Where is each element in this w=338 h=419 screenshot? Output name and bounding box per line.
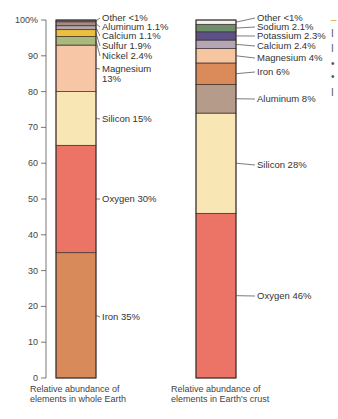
segment-label-oxygen: Oxygen 30%	[102, 193, 157, 204]
bar-segment-iron	[196, 63, 236, 84]
y-tick-label: 50	[28, 194, 38, 204]
crust-labels: Oxygen 46%Silicon 28%Aluminum 8%Iron 6%M…	[236, 12, 326, 301]
leader-line	[236, 56, 255, 58]
bar-segment-silicon	[196, 113, 236, 213]
cutoff-glyph: I	[331, 43, 334, 54]
segment-label-nickel: Nickel 2.4%	[102, 50, 153, 61]
segment-label-sulfur: Sulfur 1.9%	[102, 40, 152, 51]
cutoff-glyph: •	[331, 58, 335, 69]
segment-label-oxygen: Oxygen 46%	[257, 290, 312, 301]
leader-line	[96, 315, 100, 317]
segment-label-other: Other <1%	[102, 12, 148, 23]
segment-label-aluminum: Aluminum 8%	[257, 93, 316, 104]
segment-label-magnesium: 13%	[102, 73, 122, 84]
whole-earth-caption-line2: elements in whole Earth	[30, 394, 126, 404]
y-tick-label: 0	[33, 373, 38, 383]
leader-line	[236, 163, 255, 165]
leader-line	[96, 118, 100, 119]
y-tick-label: 70	[28, 122, 38, 132]
leader-line	[96, 68, 100, 69]
segment-label-iron: Iron 6%	[257, 66, 290, 77]
leader-line	[96, 24, 100, 27]
leader-line	[236, 27, 255, 28]
bar-segment-calcium	[56, 26, 96, 30]
bar-segment-potassium	[196, 32, 236, 40]
crust-caption-line1: Relative abundance of	[171, 384, 269, 394]
y-tick-label: 20	[28, 301, 38, 311]
segment-label-calcium: Calcium 2.4%	[257, 40, 316, 51]
segment-label-magnesium: Magnesium 4%	[257, 52, 323, 63]
segment-label-iron: Iron 35%	[102, 311, 141, 322]
cutoff-glyph: I	[331, 28, 334, 39]
cutoff-glyph: •	[331, 71, 335, 82]
crust-caption-line2: elements in Earth's crust	[171, 394, 269, 404]
crust-caption: Relative abundance of elements in Earth'…	[171, 384, 269, 404]
leader-line	[236, 72, 255, 74]
bar-segment-aluminum	[56, 22, 96, 26]
bar-segment-sodium	[196, 24, 236, 32]
cutoff-glyph: ‒	[331, 14, 337, 25]
bar-segment-other	[196, 20, 236, 24]
bar-segment-sulfur	[56, 30, 96, 37]
bar-segment-magnesium	[56, 45, 96, 92]
segment-label-silicon: Silicon 28%	[257, 159, 307, 170]
bar-segment-nickel	[56, 36, 96, 45]
bar-segment-calcium	[196, 40, 236, 49]
bar-segment-oxygen	[56, 145, 96, 252]
cutoff-glyph: I	[331, 87, 334, 98]
y-tick-label: 30	[28, 266, 38, 276]
bar-segment-iron	[56, 253, 96, 378]
segment-label-other: Other <1%	[257, 12, 303, 23]
y-tick-label: 80	[28, 87, 38, 97]
y-tick-label: 90	[28, 51, 38, 61]
bar-segment-oxygen	[196, 213, 236, 378]
crust-bar	[196, 20, 236, 378]
y-axis: 0102030405060708090100%	[15, 15, 46, 383]
bar-segment-silicon	[56, 92, 96, 146]
leader-line	[236, 18, 255, 22]
y-tick-label: 10	[28, 337, 38, 347]
segment-label-silicon: Silicon 15%	[102, 113, 152, 124]
element-abundance-chart: 0102030405060708090100% Iron 35%Oxygen 3…	[0, 0, 338, 419]
bar-segment-magnesium	[196, 49, 236, 63]
leader-line	[236, 44, 255, 46]
y-tick-label: 60	[28, 158, 38, 168]
whole-earth-bar	[56, 20, 96, 378]
whole-earth-caption: Relative abundance of elements in whole …	[30, 384, 126, 404]
whole-earth-caption-line1: Relative abundance of	[30, 384, 126, 394]
y-tick-label: 40	[28, 230, 38, 240]
y-tick-label: 100%	[15, 15, 38, 25]
bar-segment-aluminum	[196, 84, 236, 113]
whole-earth-labels: Iron 35%Oxygen 30%Silicon 15%Magnesium13…	[96, 12, 169, 322]
leader-line	[96, 18, 100, 21]
